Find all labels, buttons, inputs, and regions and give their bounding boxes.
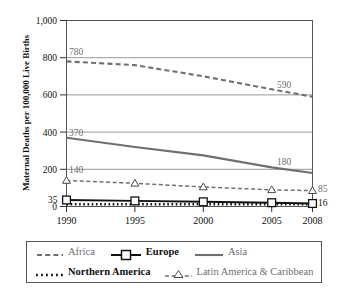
legend-row-2: Northern America Latin America & Caribbe… xyxy=(27,262,329,283)
series-line-latin-america-caribbean xyxy=(67,181,313,191)
xtick-label-2005: 2005 xyxy=(262,215,282,226)
asia-solid-line-icon xyxy=(195,247,223,259)
plot-frame xyxy=(67,21,313,207)
series-line-asia xyxy=(67,138,313,173)
data-label-africa-2008: 590 xyxy=(277,80,292,90)
marker-square xyxy=(309,200,317,208)
africa-dashed-line-icon xyxy=(37,247,63,259)
marker-square xyxy=(199,198,207,206)
latin-america-triangle-marker-line-icon xyxy=(165,267,192,279)
legend-label-latin-america-caribbean: Latin America & Caribbean xyxy=(197,267,314,278)
data-label-asia-2008: 180 xyxy=(277,157,292,167)
legend-label-asia: Asia xyxy=(228,247,247,258)
data-label-latin-1990: 140 xyxy=(69,165,84,175)
europe-square-marker-line-icon xyxy=(111,247,141,259)
marker-square xyxy=(268,199,276,207)
legend: Africa Europe Asia xyxy=(26,241,322,283)
legend-item-europe[interactable]: Europe xyxy=(111,247,179,259)
ytick-label-400: 400 xyxy=(43,128,58,138)
legend-item-northern-america[interactable]: Northern America xyxy=(35,267,151,279)
xtick-label-2000: 2000 xyxy=(193,215,213,226)
series-line-africa xyxy=(67,61,313,96)
legend-label-africa: Africa xyxy=(68,247,95,258)
marker-triangle xyxy=(131,179,139,186)
marker-triangle xyxy=(309,187,317,194)
series-markers-latin-america-caribbean xyxy=(63,177,317,194)
legend-item-asia[interactable]: Asia xyxy=(195,247,247,259)
legend-row-1: Africa Europe Asia xyxy=(27,242,331,263)
xtick-label-1995: 1995 xyxy=(125,215,145,226)
legend-label-northern-america: Northern America xyxy=(68,267,151,278)
ytick-label-1000: 1,000 xyxy=(36,16,58,26)
northern-america-dotted-line-icon xyxy=(35,267,63,279)
x-tick-labels: 1990 1995 2000 2005 2008 xyxy=(57,215,323,226)
data-label-asia-1990: 370 xyxy=(69,128,84,138)
y-tick-labels: 1,000 800 600 400 200 0 xyxy=(36,16,58,212)
ytick-label-200: 200 xyxy=(43,165,58,175)
ytick-label-800: 800 xyxy=(43,53,58,63)
marker-square xyxy=(63,196,71,204)
legend-label-europe: Europe xyxy=(146,247,179,258)
data-label-europe-1990: 35 xyxy=(48,195,58,205)
data-label-latin-2008: 85 xyxy=(318,184,328,194)
x-tick-marks xyxy=(67,207,313,213)
marker-square xyxy=(131,197,139,205)
legend-item-africa[interactable]: Africa xyxy=(37,247,95,259)
legend-item-latin-america-caribbean[interactable]: Latin America & Caribbean xyxy=(165,267,314,279)
xtick-label-1990: 1990 xyxy=(57,215,77,226)
chart-figure: Maternal Deaths per 100,000 Live Births … xyxy=(0,0,343,291)
data-label-europe-2008: 16 xyxy=(318,198,328,208)
data-label-africa-1990: 780 xyxy=(69,47,84,57)
data-labels: 780 590 370 180 140 85 xyxy=(69,47,328,194)
xtick-label-2008: 2008 xyxy=(303,215,323,226)
ytick-label-600: 600 xyxy=(43,90,58,100)
